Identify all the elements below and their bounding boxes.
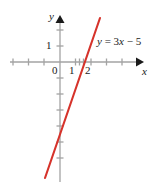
line-graph-figure: y x 0 1 2 1 y = 3x − 5 bbox=[0, 0, 164, 189]
tick-label-x-2: 2 bbox=[85, 65, 91, 76]
y-axis-label: y bbox=[49, 11, 54, 22]
y-axis-arrow-icon bbox=[56, 15, 65, 23]
tick-label-origin: 0 bbox=[52, 65, 58, 76]
tick-label-x-1: 1 bbox=[69, 65, 75, 76]
function-line bbox=[45, 18, 100, 178]
x-axis-label: x bbox=[142, 66, 147, 77]
equation-constant: − 5 bbox=[124, 35, 141, 47]
equation-annotation: y = 3x − 5 bbox=[97, 36, 141, 47]
tick-label-y-1: 1 bbox=[46, 40, 52, 51]
plot-canvas bbox=[0, 0, 164, 189]
equation-operator: = 3 bbox=[102, 35, 119, 47]
